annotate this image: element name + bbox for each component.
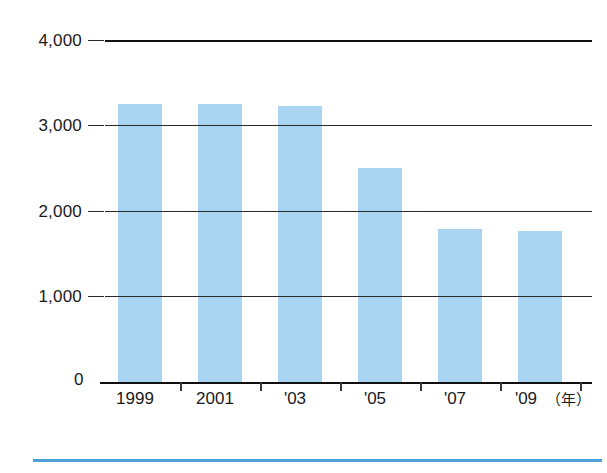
x-axis-label-1999: 1999 — [100, 390, 170, 407]
bar-09 — [518, 231, 562, 382]
y-tick-1000 — [88, 296, 104, 297]
x-axis-label-05: '05 — [340, 390, 410, 407]
y-axis-label-3000: 3,000 — [38, 117, 82, 134]
y-axis-label-4000: 4,000 — [38, 32, 82, 49]
x-axis-label-2001: 2001 — [180, 390, 250, 407]
y-tick-4000 — [88, 40, 104, 41]
bar-chart-figure: 4,000 3,000 2,000 1,000 0 1999 2001 ' — [0, 0, 607, 473]
y-tick-3000 — [88, 125, 104, 126]
bar-1999 — [118, 104, 162, 382]
y-axis-label-zero: 0 — [74, 371, 83, 388]
y-tick-2000 — [88, 211, 104, 212]
x-axis-label-07: '07 — [420, 390, 490, 407]
bar-03 — [278, 106, 322, 382]
y-axis-label-2000: 2,000 — [38, 203, 82, 220]
x-axis-label-03: '03 — [260, 390, 330, 407]
x-axis-unit-label: （年） — [546, 392, 591, 407]
bar-05 — [358, 168, 402, 382]
y-axis-label-1000: 1,000 — [38, 288, 82, 305]
footer-rule — [33, 459, 602, 462]
x-axis-baseline — [100, 382, 592, 384]
bars-layer — [105, 40, 592, 382]
bar-2001 — [198, 104, 242, 382]
bar-07 — [438, 229, 482, 382]
x-tick-6 — [580, 382, 582, 391]
